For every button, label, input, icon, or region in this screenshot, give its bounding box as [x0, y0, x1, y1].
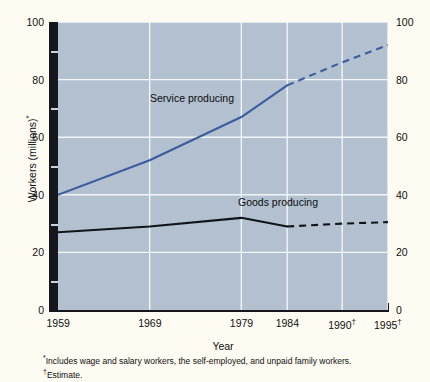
- footnote-dagger: †Estimate.: [43, 368, 82, 380]
- x-axis-label: 1959: [47, 318, 70, 329]
- y-axis-title: Workers (millions)*: [24, 84, 38, 234]
- y-axis-label-right: 20: [396, 247, 408, 258]
- series-label-goods-producing: Goods producing: [238, 196, 318, 208]
- x-axis-label: 1984: [276, 318, 299, 329]
- y-axis-label-right: 100: [396, 17, 414, 28]
- x-axis-label-dagger: †: [397, 317, 401, 326]
- chart-figure: 020406080100 020406080100 19591969197919…: [0, 0, 430, 382]
- x-axis-title: Year: [58, 340, 388, 352]
- y-axis-label-right: 40: [396, 190, 408, 201]
- footnote-dagger-text: Estimate.: [47, 370, 82, 380]
- y-axis-title-star: *: [24, 115, 33, 118]
- footnote-star-text: Includes wage and salary workers, the se…: [46, 356, 352, 366]
- x-axis-label-dagger: †: [352, 317, 356, 326]
- y-axis-label-left: 0: [38, 305, 44, 316]
- series-line-actual-1: [58, 218, 287, 232]
- x-axis-label: 1969: [138, 318, 161, 329]
- y-axis-minor-tick: [51, 108, 58, 110]
- x-axis-label: 1995†: [374, 318, 402, 330]
- y-axis-minor-tick: [51, 224, 58, 226]
- series-label-service-producing: Service producing: [150, 92, 234, 104]
- x-axis-label: 1990†: [328, 318, 356, 330]
- y-axis-minor-tick: [51, 166, 58, 168]
- footnote-star: *Includes wage and salary workers, the s…: [43, 354, 351, 366]
- series-line-projected-1: [287, 222, 388, 226]
- plot-svg: [58, 22, 388, 310]
- y-axis-minor-tick: [51, 281, 58, 283]
- y-axis-label-right: 80: [396, 75, 408, 86]
- y-axis-label-right: 0: [396, 305, 402, 316]
- y-axis-minor-tick: [51, 51, 58, 53]
- y-axis-label-right: 60: [396, 132, 408, 143]
- plot-area: [58, 22, 388, 310]
- y-axis-label-left: 20: [32, 247, 44, 258]
- y-axis-label-left: 100: [26, 17, 44, 28]
- x-axis-label: 1979: [230, 318, 253, 329]
